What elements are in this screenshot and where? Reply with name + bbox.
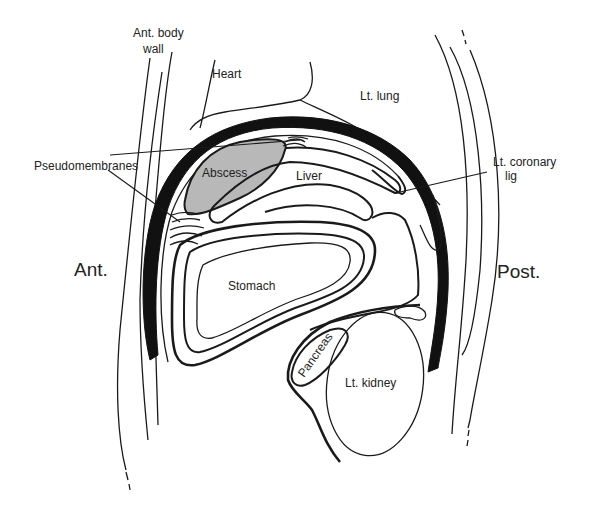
label-pseudomembranes: Pseudomembranes	[34, 159, 138, 173]
label-lt-coronary-lig-1: Lt. coronary	[493, 155, 556, 169]
label-ant-body-wall-2: wall	[142, 42, 164, 56]
label-lt-coronary-lig-2: lig	[505, 169, 517, 183]
label-lt-kidney: Lt. kidney	[345, 376, 396, 390]
label-abscess: Abscess	[202, 166, 247, 180]
label-heart: Heart	[212, 67, 242, 81]
label-post: Post.	[497, 261, 540, 282]
label-ant-body-wall-1: Ant. body	[133, 26, 184, 40]
label-liver: Liver	[296, 169, 322, 183]
label-lt-lung: Lt. lung	[360, 89, 399, 103]
subphrenic-abscess-diagram: Ant. body wall Heart Lt. lung Pseudomemb…	[0, 0, 595, 508]
label-ant: Ant.	[74, 259, 108, 280]
label-stomach: Stomach	[228, 279, 275, 293]
